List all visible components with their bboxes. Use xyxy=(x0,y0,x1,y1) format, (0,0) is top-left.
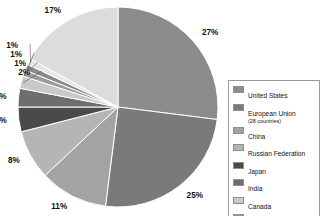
legend-item[interactable]: India xyxy=(233,178,316,194)
legend-item-sublabel: (28 countries) xyxy=(248,119,296,124)
legend-item[interactable]: European Union(28 countries) xyxy=(233,103,316,125)
pie-slice-percent-label: 8% xyxy=(8,156,21,165)
legend-item-label: United States xyxy=(248,92,288,99)
legend-item-label: China xyxy=(248,133,265,140)
pie-slice-percent-label: 2% xyxy=(18,68,31,77)
legend-label-wrap: United States xyxy=(248,85,288,101)
legend-item-label: Russian Federation xyxy=(248,150,305,157)
legend-item[interactable]: United States xyxy=(233,85,316,101)
legend-label-wrap: India xyxy=(248,178,262,194)
legend-color-swatch xyxy=(233,179,244,186)
legend-item-label: Canada xyxy=(248,203,271,210)
legend-color-swatch xyxy=(233,127,244,134)
legend-color-swatch xyxy=(233,162,244,169)
legend-label-wrap: China xyxy=(248,126,265,142)
legend-color-swatch xyxy=(233,214,244,216)
legend-color-swatch xyxy=(233,104,244,111)
pie-slice-percent-label: 11% xyxy=(51,202,68,211)
legend-item-label: Japan xyxy=(248,168,266,175)
pie-slice-percent-label: 4% xyxy=(0,116,8,125)
legend-label-wrap: European Union(28 countries) xyxy=(248,103,296,125)
pie-chart-figure: 27%25%11%8%4%3%2%1%1%1%17% United States… xyxy=(0,0,333,216)
legend-item[interactable]: Mexico xyxy=(233,213,316,216)
pie-slice-percent-label: 25% xyxy=(187,191,204,200)
legend-item[interactable]: China xyxy=(233,126,316,142)
legend-label-wrap: Canada xyxy=(248,196,271,212)
legend-label-wrap: Russian Federation xyxy=(248,143,305,159)
legend-item-label: European Union xyxy=(248,110,296,117)
pie-slice-percent-label: 1% xyxy=(10,50,23,59)
pie-slice-percent-label: 3% xyxy=(0,92,7,101)
pie-slice-percent-label: 27% xyxy=(202,28,219,37)
legend-item[interactable]: Russian Federation xyxy=(233,143,316,159)
legend-item[interactable]: Canada xyxy=(233,196,316,212)
chart-legend: United StatesEuropean Union(28 countries… xyxy=(228,80,320,216)
legend-color-swatch xyxy=(233,86,244,93)
legend-color-swatch xyxy=(233,197,244,204)
pie-slice[interactable] xyxy=(118,7,218,120)
pie-slice-percent-label: 17% xyxy=(45,6,62,15)
legend-item[interactable]: Japan xyxy=(233,161,316,177)
pie-slice-percent-label: 1% xyxy=(6,41,19,50)
legend-label-wrap: Japan xyxy=(248,161,266,177)
legend-item-label: India xyxy=(248,185,262,192)
legend-color-swatch xyxy=(233,144,244,151)
legend-label-wrap: Mexico xyxy=(248,213,269,216)
pie-slice-percent-label: 1% xyxy=(14,59,27,68)
